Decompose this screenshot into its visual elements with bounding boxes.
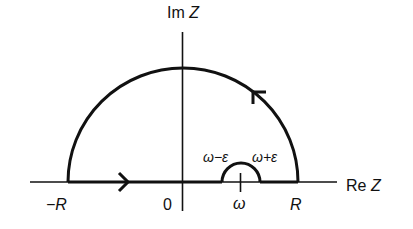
real-axis-label: Re Z xyxy=(346,177,382,194)
contour-diagram: Im Z Re Z −R 0 ω R ω−ε ω+ε xyxy=(0,0,413,229)
R-label: R xyxy=(290,196,302,213)
omega-label: ω xyxy=(233,195,245,212)
zero-label: 0 xyxy=(163,196,172,213)
omega-plus-epsilon-label: ω+ε xyxy=(252,149,278,165)
minus-R-label: −R xyxy=(46,196,67,213)
imaginary-axis-label: Im Z xyxy=(167,4,200,21)
omega-minus-epsilon-label: ω−ε xyxy=(203,149,229,165)
